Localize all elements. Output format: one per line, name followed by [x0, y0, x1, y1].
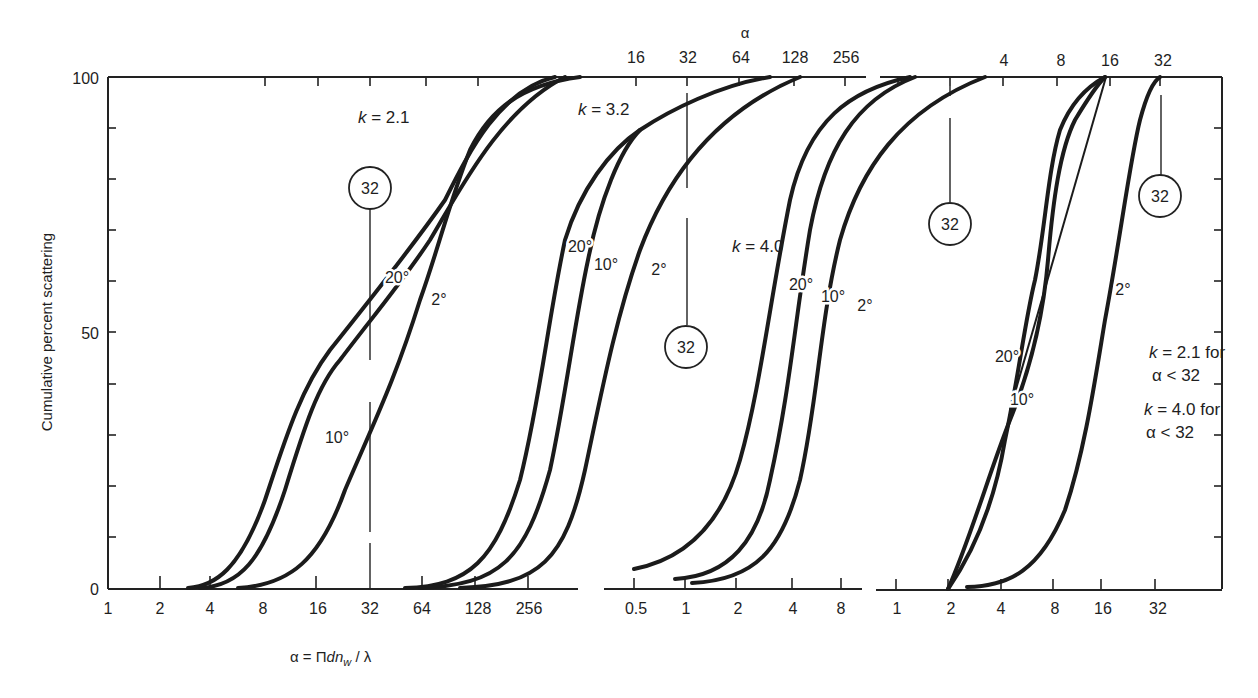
top-tick: 16 [1101, 52, 1119, 69]
top-tick: 128 [782, 49, 809, 66]
label-k32-20deg: 20° [568, 238, 592, 255]
svg-text:α < 32: α < 32 [1146, 423, 1194, 442]
svg-text:32: 32 [1151, 188, 1169, 205]
bottom-tick: 128 [465, 600, 492, 617]
label-k32-10deg: 10° [594, 256, 618, 273]
bottom-tick: 4 [206, 600, 215, 617]
curves-k32 [405, 77, 800, 588]
right-frame [1214, 77, 1222, 589]
bottom-tick: 16 [1094, 600, 1112, 617]
bottom-tick: 1 [104, 600, 113, 617]
label-k21-10deg: 10° [325, 429, 349, 446]
k-label-3.2: k = 3.2 [578, 100, 630, 119]
curve-k40-20deg [634, 77, 910, 569]
curve-p3-10deg [948, 77, 1105, 589]
label-p3-2deg: 2° [1115, 281, 1130, 298]
bottom-tick: 1 [893, 600, 902, 617]
label-p3-20deg: 20° [995, 348, 1019, 365]
svg-text:α < 32: α < 32 [1152, 366, 1200, 385]
label-p3-10deg: 10° [1010, 391, 1034, 408]
top-tick: 256 [833, 49, 860, 66]
label-k21-2deg: 2° [431, 291, 446, 308]
label-k40-20deg: 20° [789, 276, 813, 293]
curve-k32-20deg [405, 77, 770, 588]
label-k21-20deg: 20° [385, 269, 409, 286]
curves-panel3 [948, 77, 1160, 589]
y-tick-100: 100 [72, 70, 99, 87]
bottom-tick: 256 [516, 600, 543, 617]
top-axis: α 16 32 64 128 256 4 8 16 32 [108, 24, 1222, 86]
curves-k21 [188, 77, 580, 588]
svg-text:32: 32 [941, 216, 959, 233]
top-tick: 4 [1000, 52, 1009, 69]
bottom-tick: 32 [361, 600, 379, 617]
bottom-tick: 2 [734, 600, 743, 617]
marker-panel1: 32 [349, 167, 391, 589]
bottom-tick: 2 [156, 600, 165, 617]
bottom-tick: 32 [1149, 600, 1167, 617]
bottom-tick: 8 [1051, 600, 1060, 617]
curve-k40-2deg [692, 77, 985, 583]
bottom-tick: 4 [997, 600, 1006, 617]
top-tick: 64 [732, 49, 750, 66]
curve-k21-20deg [188, 77, 555, 588]
top-tick: 8 [1057, 52, 1066, 69]
marker-panel4: 32 [1139, 95, 1181, 217]
svg-text:k = 2.1 for: k = 2.1 for [1149, 343, 1225, 362]
bottom-tick: 4 [789, 600, 798, 617]
scattering-chart: 100 50 0 Cumulative percent scattering [0, 0, 1258, 698]
svg-text:k = 4.0 for: k = 4.0 for [1144, 400, 1220, 419]
k-label-2.1: k = 2.1 [358, 108, 410, 127]
k-label-4.0: k = 4.0 [732, 237, 784, 256]
svg-text:32: 32 [677, 339, 695, 356]
y-axis: 100 50 0 Cumulative percent scattering [38, 70, 116, 598]
top-tick: 16 [627, 49, 645, 66]
label-k32-2deg: 2° [651, 261, 666, 278]
right-note: k = 2.1 for α < 32 k = 4.0 for α < 32 [1144, 343, 1225, 442]
bottom-tick: 2 [947, 600, 956, 617]
bottom-tick: 64 [413, 600, 431, 617]
y-axis-title: Cumulative percent scattering [38, 233, 55, 431]
bottom-tick: 1 [682, 600, 691, 617]
bottom-tick: 8 [259, 600, 268, 617]
svg-text:32: 32 [361, 180, 379, 197]
bottom-tick: 8 [837, 600, 846, 617]
bottom-axis: 1 2 4 8 16 32 64 128 256 0.5 1 2 4 8 1 2… [104, 576, 1222, 668]
y-tick-50: 50 [81, 325, 99, 342]
marker-panel2: 32 [665, 93, 707, 368]
marker-panel3: 32 [929, 86, 971, 245]
curve-k21-2deg [238, 77, 580, 588]
curve-p3-straight [1010, 77, 1106, 410]
label-k40-10deg: 10° [821, 288, 845, 305]
label-k40-2deg: 2° [857, 297, 872, 314]
x-axis-title: α = Πdnw / λ [290, 648, 372, 668]
y-tick-0: 0 [90, 581, 99, 598]
top-axis-title: α [741, 24, 750, 41]
bottom-tick: 0.5 [625, 600, 647, 617]
top-tick: 32 [679, 49, 697, 66]
bottom-tick: 16 [309, 600, 327, 617]
top-tick: 32 [1154, 52, 1172, 69]
